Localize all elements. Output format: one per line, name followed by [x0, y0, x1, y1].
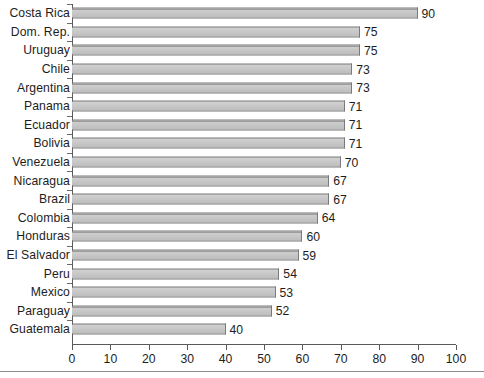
category-label: Bolivia: [33, 136, 70, 150]
bar-wrapper: 73: [72, 82, 352, 93]
y-axis-tick: [67, 320, 72, 321]
bottom-rule: [0, 371, 484, 372]
bar: 90: [72, 8, 418, 19]
x-axis-tick-label: 0: [69, 352, 76, 366]
x-axis-tick-label: 90: [411, 352, 425, 366]
x-axis-tick-label: 80: [372, 352, 386, 366]
category-label: Chile: [42, 62, 70, 76]
plot-area: Costa Rica90Dom. Rep.75Uruguay75Chile73A…: [0, 0, 484, 378]
x-axis-tick-label: 20: [142, 352, 156, 366]
category-label: Costa Rica: [9, 6, 70, 20]
bar: 73: [72, 64, 352, 75]
bar-row: Panama71: [0, 97, 484, 116]
y-axis-tick: [67, 134, 72, 135]
bar: 70: [72, 157, 341, 168]
bar-row: Costa Rica90: [0, 4, 484, 23]
bar: 60: [72, 231, 302, 242]
y-axis-tick: [67, 41, 72, 42]
y-axis-tick: [67, 153, 72, 154]
x-axis-tick: [379, 345, 380, 350]
bar-row: Venezuela70: [0, 153, 484, 172]
bar-wrapper: 67: [72, 194, 329, 205]
x-axis-tick: [110, 345, 111, 350]
bar: 53: [72, 287, 276, 298]
bar-row: Peru54: [0, 264, 484, 283]
bar-value-label: 90: [422, 6, 436, 20]
y-axis-tick: [67, 302, 72, 303]
bar-row: Argentina73: [0, 78, 484, 97]
bar-row: Paraguay52: [0, 302, 484, 321]
bar-wrapper: 40: [72, 324, 226, 335]
x-axis-tick-label: 60: [296, 352, 310, 366]
x-axis-tick-label: 100: [446, 352, 466, 366]
bar-value-label: 75: [364, 25, 378, 39]
category-label: Colombia: [18, 211, 70, 225]
bar-wrapper: 67: [72, 175, 329, 186]
bar-value-label: 67: [333, 174, 347, 188]
x-axis-tick-label: 30: [180, 352, 194, 366]
bar-wrapper: 52: [72, 305, 272, 316]
bar-row: El Salvador59: [0, 246, 484, 265]
x-axis-tick: [456, 345, 457, 350]
bar-wrapper: 71: [72, 119, 345, 130]
category-label: Venezuela: [12, 155, 70, 169]
x-axis-tick: [149, 345, 150, 350]
bar-value-label: 64: [322, 211, 336, 225]
y-axis-tick: [67, 4, 72, 5]
x-axis-tick: [187, 345, 188, 350]
bar-wrapper: 90: [72, 8, 418, 19]
bar: 75: [72, 26, 360, 37]
bar-row: Bolivia71: [0, 134, 484, 153]
y-axis-tick: [67, 264, 72, 265]
bar: 64: [72, 212, 318, 223]
bar-wrapper: 75: [72, 45, 360, 56]
bar-rows: Costa Rica90Dom. Rep.75Uruguay75Chile73A…: [0, 4, 484, 339]
x-axis-tick: [264, 345, 265, 350]
y-axis-tick: [67, 23, 72, 24]
x-axis-tick: [226, 345, 227, 350]
y-axis-tick: [67, 116, 72, 117]
bar-value-label: 71: [349, 118, 363, 132]
category-label: Uruguay: [23, 43, 70, 57]
bar-wrapper: 64: [72, 212, 318, 223]
x-axis-tick: [341, 345, 342, 350]
x-axis-tick: [302, 345, 303, 350]
bar-value-label: 73: [356, 81, 370, 95]
category-label: Paraguay: [17, 304, 70, 318]
bar-row: Dom. Rep.75: [0, 23, 484, 42]
bar-wrapper: 70: [72, 157, 341, 168]
y-axis-tick: [67, 246, 72, 247]
y-axis-tick: [67, 60, 72, 61]
bar: 71: [72, 138, 345, 149]
category-label: Mexico: [31, 285, 70, 299]
bar: 52: [72, 305, 272, 316]
bar-wrapper: 53: [72, 287, 276, 298]
bar: 67: [72, 194, 329, 205]
y-axis-tick: [67, 190, 72, 191]
bar-row: Brazil67: [0, 190, 484, 209]
bar-value-label: 59: [303, 248, 317, 262]
bar-wrapper: 75: [72, 26, 360, 37]
bar-row: Honduras60: [0, 227, 484, 246]
bar-value-label: 54: [283, 267, 297, 281]
y-axis-tick: [67, 209, 72, 210]
y-axis-tick: [67, 97, 72, 98]
bar-row: Guatemala40: [0, 320, 484, 339]
category-label: Dom. Rep.: [11, 25, 70, 39]
bar-row: Nicaragua67: [0, 171, 484, 190]
category-label: Honduras: [16, 229, 70, 243]
category-label: El Salvador: [7, 248, 70, 262]
bar: 54: [72, 268, 279, 279]
x-axis-tick-label: 40: [219, 352, 233, 366]
bar-wrapper: 60: [72, 231, 302, 242]
x-axis-tick: [418, 345, 419, 350]
category-label: Peru: [44, 267, 70, 281]
bar-value-label: 75: [364, 43, 378, 57]
y-axis-tick: [67, 227, 72, 228]
bar: 40: [72, 324, 226, 335]
bar-row: Chile73: [0, 60, 484, 79]
bar: 71: [72, 101, 345, 112]
x-axis-tick-label: 70: [334, 352, 348, 366]
bar-row: Colombia64: [0, 209, 484, 228]
bar-wrapper: 73: [72, 64, 352, 75]
